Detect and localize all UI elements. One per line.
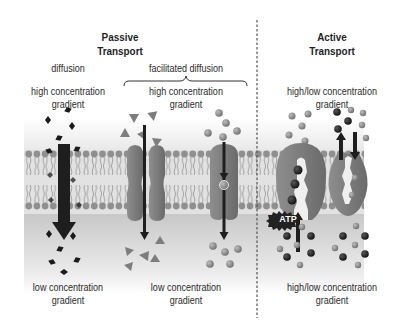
diffusion-top-label: high concentration gradient	[25, 85, 111, 111]
active-bottom-label: high/low concentration gradient	[280, 281, 383, 307]
diffusion-bottom-label: low concentration gradient	[25, 281, 111, 307]
facilitated-bottom-label: low concentration gradient	[143, 281, 229, 307]
active-bottom-line2: gradient	[280, 294, 383, 307]
active-title-line1: Active	[304, 30, 359, 44]
passive-title-line2: Transport	[92, 44, 147, 58]
diffusion-top-line2: gradient	[25, 98, 111, 111]
active-bottom-line1: high/low concentration	[280, 281, 383, 294]
diffusion-top-line1: high concentration	[25, 85, 111, 98]
diffusion-bottom-line1: low concentration	[25, 281, 111, 294]
active-title-line2: Transport	[304, 44, 359, 58]
facilitated-bottom-line2: gradient	[143, 294, 229, 307]
active-top-label: high/low concentration gradient	[280, 85, 383, 111]
facilitated-bottom-line1: low concentration	[143, 281, 229, 294]
passive-title-line1: Passive	[92, 30, 147, 44]
active-transport-title: Active Transport	[304, 30, 359, 58]
diffusion-bottom-line2: gradient	[25, 294, 111, 307]
active-top-line2: gradient	[280, 98, 383, 111]
transport-diagram: Passive Transport Active Transport diffu…	[0, 0, 410, 332]
facilitated-top-line1: high concentration	[143, 85, 229, 98]
diffusion-label: diffusion	[42, 62, 94, 75]
atp-label: ATP	[276, 214, 300, 225]
facilitated-diffusion-label: facilitated diffusion	[143, 62, 229, 75]
passive-transport-title: Passive Transport	[92, 30, 147, 58]
active-top-line1: high/low concentration	[280, 85, 383, 98]
facilitated-top-label: high concentration gradient	[143, 85, 229, 111]
facilitated-top-line2: gradient	[143, 98, 229, 111]
